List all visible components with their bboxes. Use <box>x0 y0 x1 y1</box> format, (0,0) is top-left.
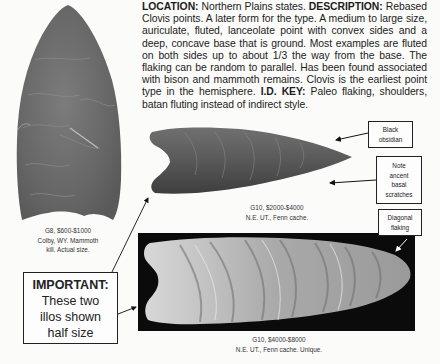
bottom-point-caption: G10, $4000-$8000 N.E. UT., Fenn cache. U… <box>214 335 344 354</box>
middle-point-image <box>150 127 352 193</box>
important-line: These two <box>24 293 117 309</box>
caption-line: kill. Actual size. <box>14 245 122 255</box>
left-point-image <box>17 5 121 220</box>
callout-line: basal <box>377 180 421 190</box>
arrow-important-to-bottom <box>118 307 136 314</box>
important-line: illos shown <box>24 309 117 325</box>
caption-line: G10, $2000-$4000 <box>220 203 334 213</box>
caption-line: G10, $4000-$8000 <box>214 335 344 345</box>
bottom-point-image <box>144 237 410 324</box>
callout-basal-scratches: Note ancent basal scratches <box>376 156 422 204</box>
callout-line: Black <box>369 125 412 135</box>
left-point-caption: G8, $600-$1000 Colby, WY. Mammoth kill. … <box>14 226 122 255</box>
important-line: half size <box>24 325 117 341</box>
callout-line: obsidian <box>369 135 412 145</box>
caption-line: G8, $600-$1000 <box>14 226 122 236</box>
callout-line: scratches <box>377 190 421 200</box>
callout-line: Diagonal <box>379 213 421 223</box>
callout-line: flaking <box>379 223 421 233</box>
caption-line: N.E. UT., Fenn cache. <box>220 213 334 223</box>
callout-black-obsidian: Black obsidian <box>368 121 413 148</box>
middle-point-caption: G10, $2000-$4000 N.E. UT., Fenn cache. <box>220 203 334 222</box>
callout-line: ancent <box>377 171 421 181</box>
arrow-diagonal-flaking <box>396 239 407 251</box>
important-note-box: IMPORTANT: These two illos shown half si… <box>23 272 118 344</box>
callout-line: Note <box>377 161 421 171</box>
caption-line: Colby, WY. Mammoth <box>14 236 122 246</box>
callout-diagonal-flaking: Diagonal flaking <box>378 209 422 236</box>
important-heading: IMPORTANT: <box>24 277 117 293</box>
arrow-basal-scratches <box>330 180 376 183</box>
caption-line: N.E. UT., Fenn cache. Unique. <box>214 345 344 355</box>
arrow-black-obsidian <box>336 133 368 140</box>
